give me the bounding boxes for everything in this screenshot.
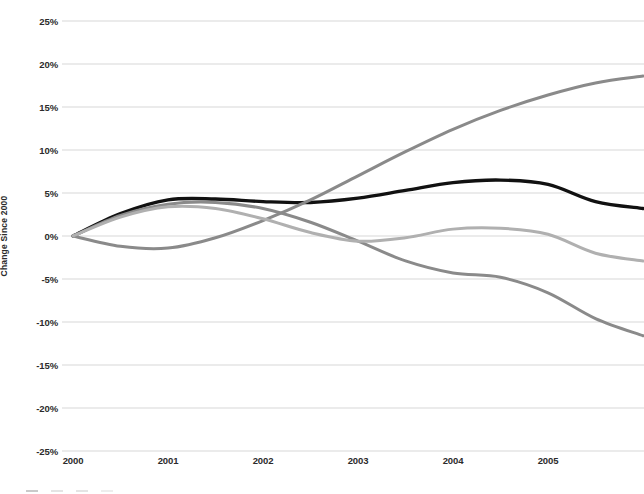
legend-swatch [76,490,88,492]
legend-item [101,490,116,492]
legend-swatch [51,490,63,492]
legend-item [51,490,66,492]
chart-legend [26,486,116,494]
legend-item [26,490,41,492]
legend-item [76,490,91,492]
data-line-series-mid-gray-falling [73,202,643,336]
x-axis-tick-label: 2002 [253,455,274,466]
legend-swatch [26,490,38,492]
line-chart: Change Since 2000 25%20%15%10%5%0%-5%-10… [0,0,644,494]
x-axis-tick-label: 2003 [348,455,369,466]
x-axis-tick-label: 2001 [158,455,179,466]
x-axis-tick-label: 2004 [443,455,464,466]
x-axis-tick-label: 2005 [538,455,559,466]
chart-plot-area [0,0,644,494]
data-lines [73,76,643,336]
legend-swatch [101,490,113,492]
data-line-series-dark-gray-rising [73,76,643,249]
data-line-series-light-gray [73,206,643,261]
x-axis-tick-label: 2000 [63,455,84,466]
